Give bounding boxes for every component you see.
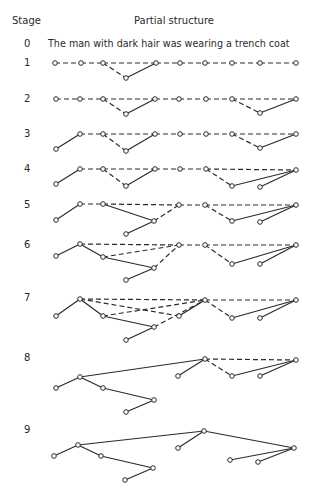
word-node-hair [153, 97, 158, 102]
word-node-coat [294, 132, 299, 137]
word-node-with [99, 454, 104, 459]
tentative-link [80, 244, 179, 245]
word-node-coat [294, 97, 299, 102]
confirmed-link [78, 445, 101, 456]
tentative-link [103, 99, 126, 114]
word-node-a [230, 316, 235, 321]
word-node-The [54, 182, 59, 187]
word-node-man [78, 242, 83, 247]
stage-column-header: Stage [12, 15, 41, 26]
structure-column-header: Partial structure [134, 15, 214, 26]
word-node-man [78, 132, 83, 137]
stage-label-7: 7 [24, 292, 30, 303]
confirmed-link [56, 244, 80, 256]
confirmed-link [80, 359, 205, 377]
word-node-with [101, 132, 106, 137]
word-node-hair [154, 61, 159, 66]
word-node-a [230, 61, 235, 66]
word-node-wearing [204, 167, 209, 172]
confirmed-link [56, 377, 80, 388]
confirmed-link [126, 400, 154, 412]
word-node-dark [124, 232, 129, 237]
word-node-dark [124, 278, 129, 283]
word-node-with [101, 167, 106, 172]
confirmed-link [103, 316, 154, 327]
confirmed-link [260, 99, 296, 113]
confirmed-link [260, 205, 296, 222]
stage-label-9: 9 [24, 424, 30, 435]
word-node-The [54, 218, 59, 223]
word-node-man [76, 443, 81, 448]
confirmed-link [232, 300, 296, 318]
word-node-was [177, 314, 182, 319]
word-node-wearing [204, 97, 209, 102]
confirmed-link [204, 431, 294, 448]
tentative-link [103, 134, 126, 151]
word-node-was [176, 446, 181, 451]
word-node-with [101, 97, 106, 102]
tentative-link [205, 359, 232, 376]
word-node-with [101, 386, 106, 391]
confirmed-link [56, 134, 80, 149]
word-node-trench [258, 262, 263, 267]
word-node-wearing [203, 61, 208, 66]
stage-8-structure: 8 [24, 352, 298, 414]
confirmed-link [260, 134, 296, 148]
stage-5-structure: 5 [24, 199, 298, 236]
confirmed-link [103, 257, 154, 268]
confirmed-link [260, 170, 296, 187]
word-node-dark [124, 149, 129, 154]
tentative-link [206, 169, 232, 186]
stage-3-structure: 3 [24, 128, 298, 153]
word-node-was [178, 61, 183, 66]
tentative-link [232, 99, 260, 113]
confirmed-link [103, 204, 154, 221]
tentative-link [205, 300, 232, 318]
word-node-hair [151, 466, 156, 471]
word-node-coat [294, 168, 299, 173]
stage-label-8: 8 [24, 352, 30, 363]
word-node-was [178, 167, 183, 172]
word-node-The [54, 147, 59, 152]
word-node-a [230, 219, 235, 224]
word-node-was [177, 243, 182, 248]
word-node-a [230, 97, 235, 102]
confirmed-link [126, 134, 155, 151]
stage-structures: 123456789 [24, 57, 298, 482]
confirmed-link [258, 448, 294, 462]
word-node-was [176, 374, 181, 379]
word-node-hair [152, 325, 157, 330]
stage-2-structure: 2 [24, 93, 298, 116]
confirmed-link [230, 448, 294, 460]
word-node-dark [124, 338, 129, 343]
confirmed-link [126, 169, 155, 186]
word-node-man [78, 202, 83, 207]
stage-label-5: 5 [24, 199, 30, 210]
parse-stages-diagram: Stage Partial structure 0 The man with d… [0, 0, 313, 501]
word-node-coat [294, 298, 299, 303]
confirmed-link [125, 468, 153, 480]
confirmed-link [56, 204, 80, 220]
word-node-man [78, 297, 83, 302]
tentative-link [80, 299, 179, 316]
confirmed-link [232, 205, 296, 221]
word-node-dark [124, 76, 129, 81]
confirmed-link [54, 445, 78, 456]
word-node-hair [152, 219, 157, 224]
word-node-coat [294, 203, 299, 208]
word-node-trench [258, 185, 263, 190]
tentative-link [154, 245, 179, 268]
word-node-trench [258, 374, 263, 379]
word-node-was [177, 97, 182, 102]
word-node-trench [258, 111, 263, 116]
stage-label-6: 6 [24, 239, 30, 250]
word-node-The [54, 386, 59, 391]
word-node-man [78, 167, 83, 172]
word-node-hair [152, 398, 157, 403]
word-node-with [101, 202, 106, 207]
word-node-The [54, 254, 59, 259]
stage-1-structure: 1 [24, 57, 298, 80]
word-node-was [178, 132, 183, 137]
word-node-wearing [203, 298, 208, 303]
word-node-dark [124, 184, 129, 189]
